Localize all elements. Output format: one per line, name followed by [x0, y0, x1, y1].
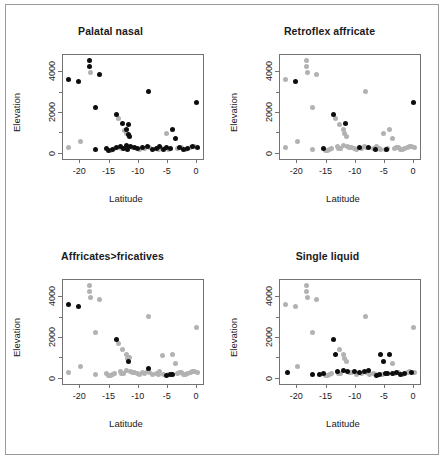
x-tick — [109, 159, 110, 163]
x-tick — [413, 384, 414, 388]
data-point — [411, 325, 416, 330]
data-point — [387, 127, 392, 132]
data-point — [384, 147, 389, 152]
data-point — [331, 337, 336, 342]
x-tick-label: -10 — [131, 391, 144, 401]
y-tick-label: 0 — [264, 362, 274, 394]
x-tick — [355, 384, 356, 388]
data-point — [146, 314, 151, 319]
data-point — [295, 139, 300, 144]
data-point — [310, 105, 315, 110]
x-tick-label: -5 — [163, 391, 171, 401]
x-axis-label: Latitude — [263, 418, 423, 429]
data-point — [344, 359, 349, 364]
data-point — [195, 370, 200, 375]
data-point — [66, 145, 71, 150]
data-point — [173, 136, 178, 141]
y-tick-label: 0 — [47, 137, 57, 169]
data-point — [126, 359, 131, 364]
data-point — [411, 100, 416, 105]
data-point — [93, 147, 98, 152]
data-point — [310, 330, 315, 335]
data-point — [285, 370, 290, 375]
data-point — [173, 361, 178, 366]
data-point — [146, 89, 151, 94]
data-point — [352, 369, 357, 374]
data-point — [88, 70, 93, 75]
panel-palatal-nasal: Palatal nasal Elevation 020004000-20-15-… — [6, 5, 223, 230]
plot-area — [280, 280, 420, 384]
x-tick — [167, 159, 168, 163]
data-point — [390, 136, 395, 141]
plot-area — [63, 55, 203, 159]
data-point — [412, 145, 417, 150]
data-point — [66, 77, 71, 82]
data-point — [363, 89, 368, 94]
data-point — [363, 314, 368, 319]
panel-title: Retroflex affricate — [223, 25, 436, 37]
panel-grid: Palatal nasal Elevation 020004000-20-15-… — [6, 5, 438, 454]
x-tick-label: -10 — [348, 391, 361, 401]
data-point — [76, 304, 81, 309]
x-tick — [384, 384, 385, 388]
plot-area — [280, 55, 420, 159]
data-point — [93, 372, 98, 377]
data-point — [283, 145, 288, 150]
y-axis-label: Elevation — [227, 57, 241, 167]
y-tick-label: 4000 — [47, 55, 57, 87]
x-tick-label: -15 — [319, 166, 332, 176]
x-tick — [138, 384, 139, 388]
y-tick-label: 2000 — [47, 321, 57, 353]
data-point — [310, 372, 315, 377]
data-point — [87, 58, 92, 63]
data-point — [283, 302, 288, 307]
x-tick-label: -20 — [290, 166, 303, 176]
x-tick-label: -20 — [73, 166, 86, 176]
x-tick — [79, 159, 80, 163]
data-point — [304, 58, 309, 63]
data-point — [305, 295, 310, 300]
data-point — [97, 72, 102, 77]
y-tick-label: 0 — [264, 137, 274, 169]
data-point — [87, 64, 92, 69]
y-tick-label: 2000 — [264, 321, 274, 353]
data-point — [112, 371, 117, 376]
data-point — [314, 72, 319, 77]
x-tick-label: -10 — [348, 166, 361, 176]
x-tick-label: -20 — [73, 391, 86, 401]
data-point — [76, 79, 81, 84]
data-point — [344, 134, 349, 139]
data-point — [390, 361, 395, 366]
panel-single-liquid: Single liquid Elevation 020004000-20-15-… — [223, 230, 440, 455]
x-tick-label: -15 — [319, 391, 332, 401]
x-tick — [384, 159, 385, 163]
x-axis-label: Latitude — [263, 193, 423, 204]
data-point — [337, 347, 342, 352]
plot-box: 020004000-20-15-10-50 — [279, 279, 421, 385]
plot-box: 020004000-20-15-10-50 — [62, 54, 204, 160]
panel-title: Palatal nasal — [6, 25, 215, 37]
x-tick-label: 0 — [410, 391, 415, 401]
data-point — [114, 337, 119, 342]
plot-area — [63, 280, 203, 384]
x-tick-label: -20 — [290, 391, 303, 401]
x-tick — [326, 159, 327, 163]
data-point — [194, 100, 199, 105]
data-point — [66, 370, 71, 375]
data-point — [170, 352, 175, 357]
data-point — [87, 289, 92, 294]
x-tick-label: -5 — [163, 166, 171, 176]
data-point — [377, 372, 382, 377]
data-point — [168, 146, 173, 151]
data-point — [333, 352, 338, 357]
data-point — [329, 371, 334, 376]
data-point — [366, 368, 371, 373]
data-point — [304, 283, 309, 288]
x-tick — [326, 384, 327, 388]
data-point — [304, 64, 309, 69]
figure-frame: Palatal nasal Elevation 020004000-20-15-… — [5, 4, 439, 455]
x-tick — [413, 159, 414, 163]
panel-title: Single liquid — [223, 250, 432, 262]
data-point — [381, 359, 386, 364]
data-point — [195, 145, 200, 150]
